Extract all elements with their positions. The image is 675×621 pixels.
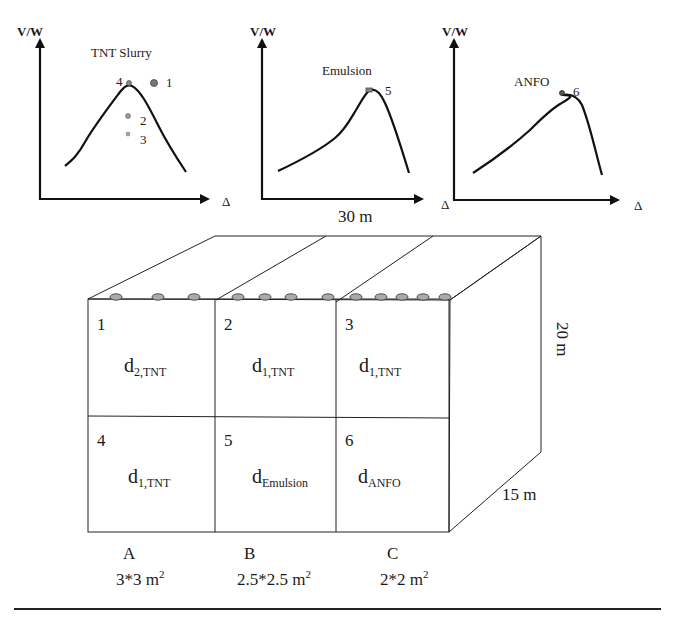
cell-burden-subscript: ANFO — [368, 476, 401, 490]
data-point-2 — [126, 114, 131, 119]
data-point-3 — [126, 132, 130, 136]
x-axis-label: Δ — [634, 198, 642, 213]
column-spacing-a: 3*3 m2 — [116, 568, 164, 589]
column-letter-a: A — [123, 544, 136, 563]
data-point-4 — [127, 81, 132, 86]
top-face — [88, 236, 541, 300]
curve — [65, 85, 186, 172]
curve — [278, 90, 409, 173]
cell-burden-subscript: Emulsion — [262, 476, 308, 490]
cell-number: 3 — [345, 315, 354, 334]
superscript: 2 — [305, 568, 311, 580]
y-axis-label: V/W — [442, 24, 468, 39]
cell-number: 5 — [224, 431, 233, 450]
column-letter-b: B — [244, 544, 255, 563]
blast-hole-b-2 — [259, 294, 271, 300]
point-label-4: 4 — [116, 74, 123, 89]
point-label-2: 2 — [140, 113, 147, 128]
blast-hole-a-2 — [152, 294, 164, 300]
superscript: 2 — [423, 568, 429, 580]
point-label-5: 5 — [385, 83, 392, 98]
top-divider-ab — [216, 236, 326, 300]
graph-emulsion: V/W Emulsion 5 — [250, 24, 422, 200]
blast-design-diagram: V/W Δ TNT Slurry 4 1 2 3 V/W Emulsion 5 … — [0, 0, 675, 621]
graph-tnt-slurry: V/W Δ TNT Slurry 4 1 2 3 — [17, 24, 230, 209]
curve-label: Emulsion — [322, 63, 372, 78]
curve-label: ANFO — [514, 74, 549, 89]
front-mid-divider — [88, 416, 449, 418]
cell-burden: dANFO — [358, 465, 401, 490]
graph-anfo: V/W Δ Δ ANFO 6 — [441, 24, 642, 213]
x-axis-label: Δ — [222, 194, 230, 209]
cell-burden-subscript: 1,TNT — [369, 365, 402, 379]
front-face — [88, 299, 449, 532]
length-label: 30 m — [338, 207, 372, 226]
blast-hole-a-3 — [188, 294, 200, 300]
cell-burden: dEmulsion — [252, 465, 308, 490]
blast-hole-c-2 — [375, 294, 387, 300]
cell-number: 1 — [97, 315, 106, 334]
cells: 1 d2,TNT 2 d1,TNT 3 d1,TNT 4 d1,TNT 5 dE… — [97, 315, 402, 490]
blast-hole-b-4 — [322, 294, 334, 300]
x-axis-label-left: Δ — [441, 197, 449, 212]
blast-hole-c-5 — [439, 294, 451, 300]
data-point-1 — [151, 80, 158, 87]
data-point-5 — [366, 88, 372, 92]
y-axis-label: V/W — [250, 24, 276, 39]
cell-burden: d1,TNT — [359, 354, 402, 379]
cell-burden: d1,TNT — [252, 354, 295, 379]
cell-5: 5 dEmulsion — [224, 431, 308, 490]
cell-number: 4 — [97, 431, 106, 450]
blast-hole-c-4 — [417, 294, 429, 300]
point-label-6: 6 — [573, 84, 580, 99]
curve-label: TNT Slurry — [91, 45, 152, 60]
cell-burden-subscript: 1,TNT — [138, 476, 171, 490]
top-divider-bc — [336, 236, 433, 302]
y-axis-label: V/W — [17, 24, 43, 39]
cell-4: 4 d1,TNT — [97, 431, 171, 490]
cell-2: 2 d1,TNT — [224, 315, 295, 379]
cell-3: 3 d1,TNT — [345, 315, 402, 379]
blast-hole-c-1 — [350, 294, 362, 300]
point-label-3: 3 — [140, 132, 147, 147]
blast-hole-b-1 — [232, 294, 244, 300]
column-labels: A 3*3 m2 B 2.5*2.5 m2 C 2*2 m2 — [116, 544, 428, 589]
cell-number: 6 — [345, 431, 354, 450]
data-point-6 — [560, 91, 565, 96]
blast-hole-a-1 — [110, 294, 122, 300]
point-label-1: 1 — [166, 75, 173, 90]
cell-number: 2 — [224, 315, 233, 334]
superscript: 2 — [159, 568, 165, 580]
cell-burden: d2,TNT — [124, 354, 167, 379]
column-spacing-b: 2.5*2.5 m2 — [237, 568, 311, 589]
cell-burden: d1,TNT — [128, 465, 171, 490]
cell-1: 1 d2,TNT — [97, 315, 167, 379]
height-label: 20 m — [553, 322, 572, 356]
blast-hole-b-3 — [285, 294, 297, 300]
blast-hole-c-3 — [396, 294, 408, 300]
depth-label: 15 m — [502, 485, 536, 504]
column-letter-c: C — [387, 544, 398, 563]
cell-burden-subscript: 2,TNT — [134, 365, 167, 379]
column-spacing-c: 2*2 m2 — [380, 568, 428, 589]
cell-6: 6 dANFO — [345, 431, 401, 490]
curve — [473, 94, 602, 175]
cell-burden-subscript: 1,TNT — [262, 365, 295, 379]
